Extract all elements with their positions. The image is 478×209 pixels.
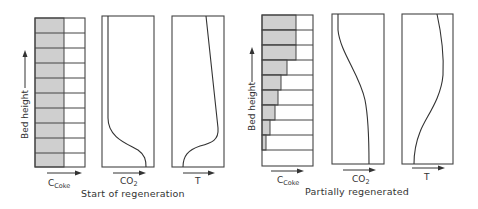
panel-start-of-regeneration: Bed height CCoke <box>20 16 224 199</box>
temperature-plot-frame <box>172 16 224 167</box>
caption-partially-regenerated: Partially regenerated <box>305 186 409 197</box>
coke-bed-left: CCoke <box>35 18 85 190</box>
panel-partially-regenerated: Bed height <box>247 14 453 197</box>
coke-bed-right: CCoke <box>262 15 313 187</box>
coke-shaded-regions <box>262 15 296 150</box>
co2-curve <box>338 14 369 164</box>
arrowhead-icon <box>75 171 82 176</box>
arrowhead-icon <box>369 168 376 173</box>
temperature-plot-frame <box>402 14 453 164</box>
co2-plot-frame <box>332 14 384 164</box>
bed-height-axis-right: Bed height <box>247 47 257 131</box>
caption-start-of-regeneration: Start of regeneration <box>81 188 185 199</box>
arrowhead-icon <box>139 171 146 176</box>
arrowhead-icon <box>23 50 28 57</box>
co2-profile-left: CO2 <box>102 16 154 188</box>
bed-height-label: Bed height <box>20 90 30 139</box>
bed-height-label: Bed height <box>247 82 257 131</box>
temperature-curve <box>414 14 443 164</box>
co2-profile-right: CO2 <box>332 14 384 186</box>
arrowhead-icon <box>250 47 255 54</box>
temperature-label: T <box>423 172 430 182</box>
arrowhead-icon <box>208 171 215 176</box>
co2-label: CO2 <box>352 174 370 186</box>
temperature-curve <box>183 16 218 167</box>
arrowhead-icon <box>438 166 445 171</box>
co2-curve <box>108 16 146 167</box>
temperature-profile-left: T <box>172 16 224 186</box>
c-coke-label: CCoke <box>48 178 70 190</box>
temperature-profile-right: T <box>402 14 453 182</box>
coke-regeneration-figure: Bed height CCoke <box>0 0 478 209</box>
temperature-label: T <box>194 176 201 186</box>
c-coke-label: CCoke <box>277 175 299 187</box>
co2-label: CO2 <box>120 176 138 188</box>
arrowhead-icon <box>297 169 304 174</box>
bed-height-axis-left: Bed height <box>20 50 30 139</box>
